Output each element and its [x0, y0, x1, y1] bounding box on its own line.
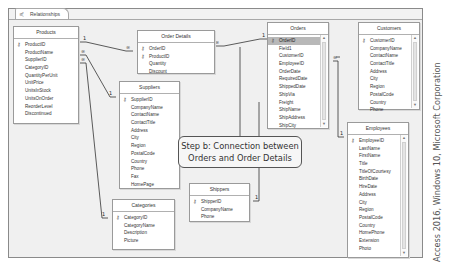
- field-row[interactable]: HomePhone: [348, 229, 401, 237]
- field-row[interactable]: Country: [348, 222, 401, 230]
- field-row[interactable]: ContactTitle: [359, 60, 412, 68]
- scroll-down-arrow-icon[interactable]: ▼: [412, 102, 418, 108]
- field-row[interactable]: City: [348, 199, 401, 207]
- field-row[interactable]: Address: [120, 127, 179, 135]
- field-row[interactable]: SupplierID: [14, 56, 78, 64]
- field-row[interactable]: ⚷ProductID: [138, 53, 214, 61]
- field-row[interactable]: ⚷ProductID: [14, 41, 78, 49]
- table-title[interactable]: Customers: [359, 23, 419, 35]
- table-shippers[interactable]: Shippers ⚷ShipperID CompanyName Phone: [189, 183, 250, 222]
- table-order-details[interactable]: Order Details ⚷OrderID ⚷ProductID Quanti…: [137, 30, 215, 74]
- field-row[interactable]: Region: [359, 83, 412, 91]
- svg-text:∞: ∞: [215, 39, 219, 45]
- field-row[interactable]: CompanyName: [120, 104, 179, 112]
- field-row[interactable]: ContactName: [359, 52, 412, 60]
- table-title[interactable]: Suppliers: [120, 82, 179, 94]
- table-employees[interactable]: Employees ⚷EmployeeID LastName FirstName…: [347, 122, 409, 258]
- field-row[interactable]: RequiredDate: [268, 75, 321, 83]
- scroll-down-arrow-icon[interactable]: ▼: [401, 250, 407, 256]
- field-row[interactable]: UnitPrice: [14, 79, 78, 87]
- field-row-selected[interactable]: ⚷OrderID: [268, 37, 321, 45]
- field-row[interactable]: CompanyName: [359, 45, 412, 53]
- field-row[interactable]: UnitsInStock: [14, 87, 78, 95]
- field-row[interactable]: PostalCode: [348, 214, 401, 222]
- field-row[interactable]: Country: [120, 158, 179, 166]
- field-row[interactable]: LastName: [348, 145, 401, 153]
- field-row[interactable]: ShippedDate: [268, 83, 321, 91]
- field-row[interactable]: ShipAddress: [268, 114, 321, 122]
- scroll-up-arrow-icon[interactable]: ▲: [412, 35, 418, 41]
- table-title[interactable]: Order Details: [138, 31, 214, 43]
- field-row[interactable]: Address: [359, 68, 412, 76]
- vertical-scrollbar[interactable]: ▲ ▼: [400, 135, 407, 256]
- field-row[interactable]: PostalCode: [359, 91, 412, 99]
- scrollbar-thumb[interactable]: [413, 42, 417, 101]
- scrollbar-thumb[interactable]: [402, 142, 406, 249]
- field-row[interactable]: Description: [113, 229, 174, 237]
- field-row[interactable]: ⚷EmployeeID: [348, 137, 401, 145]
- field-row[interactable]: Picture: [113, 237, 174, 245]
- field-row[interactable]: Phone: [120, 165, 179, 173]
- svg-text:∞: ∞: [333, 54, 337, 60]
- field-row[interactable]: CategoryID: [14, 64, 78, 72]
- field-row[interactable]: Country: [359, 99, 412, 107]
- field-row[interactable]: PostalCode: [120, 150, 179, 158]
- field-row[interactable]: Fax: [120, 173, 179, 181]
- field-row[interactable]: Region: [120, 142, 179, 150]
- field-row[interactable]: Field1: [268, 45, 321, 53]
- field-row[interactable]: ContactName: [120, 111, 179, 119]
- vertical-scrollbar[interactable]: ▲ ▼: [411, 35, 418, 108]
- field-row[interactable]: Quantity: [138, 60, 214, 68]
- field-row[interactable]: Phone: [190, 213, 249, 221]
- field-row[interactable]: ⚷CategoryID: [113, 214, 174, 222]
- field-row[interactable]: City: [359, 75, 412, 83]
- field-row[interactable]: ShipName: [268, 106, 321, 114]
- field-row[interactable]: Discontinued: [14, 110, 78, 118]
- scrollbar-thumb[interactable]: [322, 42, 326, 120]
- field-row[interactable]: ShipCity: [268, 122, 321, 130]
- field-row[interactable]: Discount: [138, 68, 214, 76]
- field-row[interactable]: ContactTitle: [120, 119, 179, 127]
- field-row[interactable]: ShipVia: [268, 91, 321, 99]
- table-title[interactable]: Shippers: [190, 184, 249, 196]
- field-row[interactable]: Photo: [348, 245, 401, 253]
- field-row[interactable]: EmployeeID: [268, 60, 321, 68]
- field-row[interactable]: Extension: [348, 237, 401, 245]
- table-title[interactable]: Employees: [348, 123, 408, 135]
- field-row[interactable]: ⚷CustomerID: [359, 37, 412, 45]
- table-categories[interactable]: Categories ⚷CategoryID CategoryName Desc…: [112, 199, 175, 250]
- field-row[interactable]: Freight: [268, 99, 321, 107]
- field-row[interactable]: Phone: [359, 106, 412, 114]
- scroll-up-arrow-icon[interactable]: ▲: [321, 35, 327, 41]
- field-row[interactable]: ProductName: [14, 49, 78, 57]
- vertical-scrollbar[interactable]: ▲ ▼: [320, 35, 327, 127]
- field-row[interactable]: Title: [348, 160, 401, 168]
- field-row[interactable]: OrderDate: [268, 68, 321, 76]
- field-row[interactable]: HomePage: [120, 181, 179, 189]
- field-row[interactable]: TitleOfCourtesy: [348, 168, 401, 176]
- table-title[interactable]: Categories: [113, 200, 174, 212]
- table-customers[interactable]: Customers ⚷CustomerID CompanyName Contac…: [358, 22, 420, 110]
- field-row[interactable]: BirthDate: [348, 175, 401, 183]
- field-row[interactable]: Region: [348, 206, 401, 214]
- field-row[interactable]: CompanyName: [190, 206, 249, 214]
- field-row[interactable]: ReorderLevel: [14, 103, 78, 111]
- table-orders[interactable]: Orders ⚷OrderID Field1 CustomerID Employ…: [267, 22, 329, 129]
- field-row[interactable]: FirstName: [348, 152, 401, 160]
- field-row[interactable]: CategoryName: [113, 222, 174, 230]
- field-row[interactable]: ⚷SupplierID: [120, 96, 179, 104]
- table-title[interactable]: Products: [14, 27, 78, 39]
- scroll-down-arrow-icon[interactable]: ▼: [321, 121, 327, 127]
- table-products[interactable]: Products ⚷ProductID ProductName Supplier…: [13, 26, 79, 124]
- scroll-up-arrow-icon[interactable]: ▲: [401, 135, 407, 141]
- field-row[interactable]: HireDate: [348, 183, 401, 191]
- field-row[interactable]: Address: [348, 191, 401, 199]
- field-row[interactable]: UnitsOnOrder: [14, 95, 78, 103]
- field-row[interactable]: City: [120, 134, 179, 142]
- table-suppliers[interactable]: Suppliers ⚷SupplierID CompanyName Contac…: [119, 81, 180, 189]
- field-row[interactable]: ⚷ShipperID: [190, 198, 249, 206]
- field-row[interactable]: CustomerID: [268, 52, 321, 60]
- field-row[interactable]: QuantityPerUnit: [14, 72, 78, 80]
- field-row[interactable]: ⚷OrderID: [138, 45, 214, 53]
- table-title[interactable]: Orders: [268, 23, 328, 35]
